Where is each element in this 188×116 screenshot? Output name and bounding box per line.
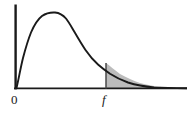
f-distribution-figure: 0 f (0, 0, 187, 116)
shaded-tail-area (106, 63, 187, 89)
critical-value-label: f (102, 93, 106, 106)
f-distribution-curve (17, 12, 188, 88)
origin-label: 0 (11, 93, 18, 106)
distribution-plot (0, 0, 187, 116)
